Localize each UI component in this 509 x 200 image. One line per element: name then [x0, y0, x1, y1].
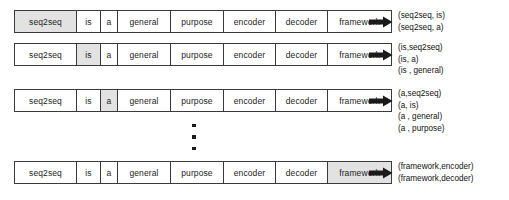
token-cell-decoder[interactable]: decoder: [276, 90, 328, 111]
token-cell-seq2seq[interactable]: seq2seq: [15, 44, 77, 65]
token-cell-a[interactable]: a: [101, 44, 118, 65]
ellipsis-dot: [192, 147, 195, 150]
token-cell-purpose[interactable]: purpose: [171, 90, 224, 111]
token-cell-seq2seq[interactable]: seq2seq: [15, 11, 77, 32]
sequence-row: seq2seq is a general purpose encoder dec…: [14, 43, 392, 66]
token-cell-general[interactable]: general: [118, 44, 171, 65]
token-cell-is[interactable]: is: [77, 90, 101, 111]
sequence-row: seq2seq is a general purpose encoder dec…: [14, 89, 392, 112]
token-cell-decoder[interactable]: decoder: [276, 162, 328, 183]
vertical-ellipsis-icon: [190, 124, 198, 150]
token-cell-decoder[interactable]: decoder: [276, 44, 328, 65]
token-cell-seq2seq[interactable]: seq2seq: [15, 162, 77, 183]
token-cell-purpose[interactable]: purpose: [171, 44, 224, 65]
sequence-row: seq2seq is a general purpose encoder dec…: [14, 161, 392, 184]
token-cell-is[interactable]: is: [77, 44, 101, 65]
pair-list: (is,seq2seq) (is, a) (is , general): [398, 42, 444, 77]
token-cell-general[interactable]: general: [118, 90, 171, 111]
pair-item: (is , general): [398, 65, 444, 77]
pair-item: (framework,decoder): [398, 173, 474, 185]
pair-item: (framework,encoder): [398, 161, 474, 173]
ellipsis-dot: [192, 124, 195, 127]
ellipsis-dot: [192, 135, 195, 138]
token-cell-a[interactable]: a: [101, 90, 118, 111]
pair-list: (framework,encoder) (framework,decoder): [398, 161, 474, 184]
pair-item: (a , purpose): [398, 123, 444, 135]
token-cell-a[interactable]: a: [101, 162, 118, 183]
right-arrow-icon: [369, 49, 393, 61]
token-table: seq2seq is a general purpose encoder dec…: [14, 161, 392, 184]
pair-item: (a,seq2seq): [398, 88, 444, 100]
pair-item: (is, a): [398, 54, 444, 66]
token-cell-decoder[interactable]: decoder: [276, 11, 328, 32]
token-table: seq2seq is a general purpose encoder dec…: [14, 10, 392, 33]
token-cell-seq2seq[interactable]: seq2seq: [15, 90, 77, 111]
pair-item: (is,seq2seq): [398, 42, 444, 54]
diagram-canvas: seq2seq is a general purpose encoder dec…: [0, 0, 509, 200]
pair-list: (seq2seq, is) (seq2seq, a): [398, 10, 445, 33]
sequence-row: seq2seq is a general purpose encoder dec…: [14, 10, 392, 33]
right-arrow-icon: [369, 95, 393, 107]
token-cell-encoder[interactable]: encoder: [224, 44, 276, 65]
token-cell-general[interactable]: general: [118, 11, 171, 32]
token-table: seq2seq is a general purpose encoder dec…: [14, 89, 392, 112]
token-cell-encoder[interactable]: encoder: [224, 162, 276, 183]
right-arrow-icon: [369, 167, 393, 179]
token-cell-is[interactable]: is: [77, 162, 101, 183]
token-cell-purpose[interactable]: purpose: [171, 11, 224, 32]
token-cell-general[interactable]: general: [118, 162, 171, 183]
token-cell-encoder[interactable]: encoder: [224, 11, 276, 32]
pair-item: (a, is): [398, 100, 444, 112]
pair-item: (seq2seq, a): [398, 22, 445, 34]
pair-item: (seq2seq, is): [398, 10, 445, 22]
token-cell-a[interactable]: a: [101, 11, 118, 32]
right-arrow-icon: [369, 16, 393, 28]
token-cell-encoder[interactable]: encoder: [224, 90, 276, 111]
pair-list: (a,seq2seq) (a, is) (a , general) (a , p…: [398, 88, 444, 134]
token-cell-is[interactable]: is: [77, 11, 101, 32]
token-cell-purpose[interactable]: purpose: [171, 162, 224, 183]
pair-item: (a , general): [398, 111, 444, 123]
token-table: seq2seq is a general purpose encoder dec…: [14, 43, 392, 66]
